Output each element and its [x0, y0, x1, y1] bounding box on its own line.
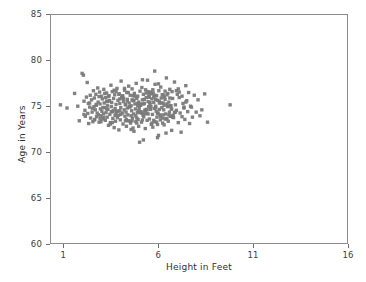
scatter-point [170, 90, 173, 93]
scatter-point [148, 101, 151, 104]
scatter-point [137, 125, 140, 128]
scatter-point [168, 96, 171, 99]
scatter-point [86, 81, 89, 84]
scatter-point [127, 84, 130, 87]
scatter-point [112, 126, 115, 129]
scatter-point [119, 118, 122, 121]
scatter-point [82, 113, 85, 116]
scatter-point [155, 115, 158, 118]
scatter-point [142, 138, 145, 141]
x-tick-label: 1 [60, 250, 66, 260]
scatter-point [65, 106, 68, 109]
scatter-point [162, 108, 165, 111]
scatter-point [131, 126, 134, 129]
scatter-point [148, 91, 151, 94]
scatter-point [143, 98, 146, 101]
scatter-point [130, 87, 133, 90]
scatter-point [148, 117, 151, 120]
scatter-point [174, 110, 177, 113]
y-tick-mark [46, 60, 50, 61]
scatter-point [169, 115, 172, 118]
scatter-point [98, 90, 101, 93]
scatter-point [59, 103, 62, 106]
scatter-point [158, 101, 161, 104]
scatter-point [110, 105, 113, 108]
scatter-point [190, 105, 193, 108]
y-axis-title: Age in Years [17, 74, 27, 194]
scatter-point [135, 116, 138, 119]
scatter-point [111, 110, 114, 113]
scatter-point [198, 114, 201, 117]
scatter-point [151, 88, 154, 91]
y-tick-label: 80 [0, 55, 42, 65]
scatter-point [124, 103, 127, 106]
scatter-point [134, 107, 137, 110]
scatter-point [130, 98, 133, 101]
scatter-point [102, 116, 105, 119]
scatter-point [114, 120, 117, 123]
scatter-plot-figure: 161116 606570758085 Height in Feet Age i… [0, 0, 366, 282]
y-tick-label: 85 [0, 9, 42, 19]
scatter-point [125, 125, 128, 128]
scatter-point [161, 93, 164, 96]
scatter-point [105, 107, 108, 110]
scatter-point [167, 100, 170, 103]
scatter-point [86, 112, 89, 115]
scatter-point [162, 104, 165, 107]
scatter-point [78, 119, 81, 122]
y-tick-mark [46, 244, 50, 245]
x-tick-label: 11 [247, 250, 258, 260]
y-tick-mark [46, 106, 50, 107]
y-tick-mark [46, 152, 50, 153]
scatter-point [99, 120, 102, 123]
scatter-point [157, 82, 160, 85]
scatter-point [165, 93, 168, 96]
scatter-point [130, 109, 133, 112]
scatter-point [106, 104, 109, 107]
scatter-point [153, 69, 156, 72]
scatter-point [126, 106, 129, 109]
scatter-point [97, 95, 100, 98]
scatter-point [158, 108, 161, 111]
scatter-point [119, 106, 122, 109]
scatter-point [173, 80, 176, 83]
scatter-point [178, 90, 181, 93]
scatter-point [188, 122, 191, 125]
scatter-point [114, 103, 117, 106]
scatter-point [129, 114, 132, 117]
scatter-point [101, 97, 104, 100]
scatter-point [88, 101, 91, 104]
scatter-point [94, 93, 97, 96]
scatter-point [160, 96, 163, 99]
scatter-point [184, 100, 187, 103]
scatter-point [228, 103, 231, 106]
scatter-point [123, 87, 126, 90]
scatter-point [170, 129, 173, 132]
scatter-point [121, 122, 124, 125]
scatter-point [145, 108, 148, 111]
scatter-point [114, 90, 117, 93]
scatter-point [196, 98, 199, 101]
scatter-point [142, 102, 145, 105]
y-tick-label: 60 [0, 239, 42, 249]
scatter-point [157, 89, 160, 92]
scatter-point [102, 88, 105, 91]
scatter-point [126, 113, 129, 116]
scatter-point [182, 105, 185, 108]
x-tick-mark [158, 244, 159, 248]
y-tick-mark [46, 198, 50, 199]
scatter-point [163, 89, 166, 92]
scatter-point [159, 85, 162, 88]
scatter-point [146, 112, 149, 115]
scatter-points-layer [51, 15, 347, 243]
scatter-point [156, 112, 159, 115]
scatter-point [179, 131, 182, 134]
y-tick-mark [46, 14, 50, 15]
scatter-point [165, 76, 168, 79]
scatter-point [152, 101, 155, 104]
x-tick-mark [63, 244, 64, 248]
scatter-point [161, 113, 164, 116]
scatter-point [156, 136, 159, 139]
scatter-point [92, 89, 95, 92]
scatter-point [151, 125, 154, 128]
